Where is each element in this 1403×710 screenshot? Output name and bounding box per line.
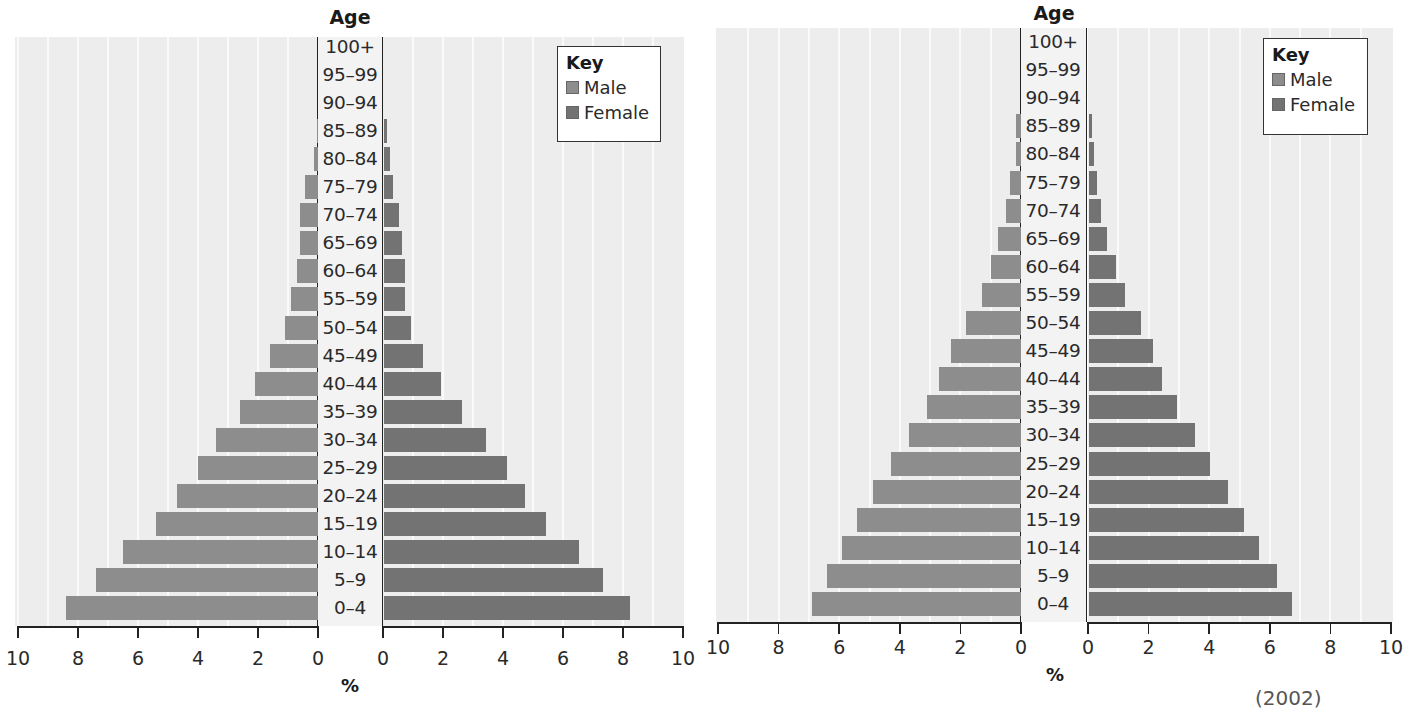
x-axis-tick xyxy=(899,622,901,634)
gridline xyxy=(808,28,810,622)
gridline xyxy=(747,28,749,622)
age-group-label: 25–29 xyxy=(1020,454,1086,474)
x-axis-tick-label: 6 xyxy=(1250,636,1290,658)
x-axis-tick-label: 4 xyxy=(880,636,920,658)
female-bar xyxy=(1089,199,1101,223)
male-bar xyxy=(991,255,1021,279)
x-axis-tick xyxy=(778,622,780,634)
x-axis-tick xyxy=(838,622,840,634)
gridline xyxy=(959,28,961,622)
male-bar xyxy=(927,395,1021,419)
x-axis-tick-label: 10 xyxy=(1371,636,1403,658)
male-bar xyxy=(909,423,1021,447)
x-axis-tick-label: 8 xyxy=(759,636,799,658)
male-bar xyxy=(1016,114,1021,138)
female-bar xyxy=(1089,227,1107,251)
female-bar xyxy=(1089,367,1162,391)
female-bar xyxy=(1089,592,1292,616)
x-axis-tick-label: 2 xyxy=(940,636,980,658)
female-bar xyxy=(1089,564,1277,588)
male-swatch-icon xyxy=(1272,73,1285,86)
legend: Key Male Female xyxy=(1263,38,1368,135)
age-group-label: 0–4 xyxy=(1020,594,1086,614)
x-axis-tick xyxy=(717,622,719,634)
age-group-label: 100+ xyxy=(1020,32,1086,52)
gridline xyxy=(929,28,931,622)
female-bar xyxy=(1089,480,1228,504)
male-bar xyxy=(812,592,1021,616)
x-axis-tick xyxy=(1390,622,1392,634)
age-group-label: 85–89 xyxy=(1020,116,1086,136)
male-bar xyxy=(1006,199,1021,223)
age-group-label: 40–44 xyxy=(1020,369,1086,389)
age-group-label: 35–39 xyxy=(1020,397,1086,417)
gridline xyxy=(838,28,840,622)
female-bar xyxy=(1089,508,1244,532)
female-bar xyxy=(1089,423,1195,447)
female-bar xyxy=(1089,114,1092,138)
x-axis-line xyxy=(718,622,1021,624)
gridline xyxy=(1148,28,1150,622)
age-group-label: 5–9 xyxy=(1020,566,1086,586)
female-bar xyxy=(1089,283,1125,307)
male-bar xyxy=(842,536,1021,560)
male-bar xyxy=(951,339,1021,363)
x-axis-line xyxy=(1088,622,1391,624)
age-axis-title: Age xyxy=(1014,2,1094,24)
age-group-label: 70–74 xyxy=(1020,201,1086,221)
female-bar xyxy=(1089,311,1141,335)
female-bar xyxy=(1089,339,1153,363)
male-bar xyxy=(982,283,1021,307)
age-group-label: 20–24 xyxy=(1020,482,1086,502)
gridline xyxy=(1178,28,1180,622)
age-group-label: 90–94 xyxy=(1020,88,1086,108)
x-axis-tick xyxy=(1208,622,1210,634)
female-swatch-icon xyxy=(1272,98,1285,111)
x-axis-tick xyxy=(960,622,962,634)
x-axis-tick-label: 4 xyxy=(1189,636,1229,658)
age-group-label: 10–14 xyxy=(1020,538,1086,558)
age-group-label: 55–59 xyxy=(1020,285,1086,305)
x-axis-tick-label: 8 xyxy=(1310,636,1350,658)
female-bar xyxy=(1089,142,1094,166)
female-bar xyxy=(1089,395,1177,419)
age-group-label: 45–49 xyxy=(1020,341,1086,361)
age-group-label: 30–34 xyxy=(1020,425,1086,445)
female-bar xyxy=(1089,536,1259,560)
gridline xyxy=(899,28,901,622)
x-axis-title: % xyxy=(1035,664,1075,685)
male-bar xyxy=(998,227,1021,251)
age-group-label: 50–54 xyxy=(1020,313,1086,333)
gridline xyxy=(778,28,780,622)
age-group-label: 15–19 xyxy=(1020,510,1086,530)
gridline xyxy=(869,28,871,622)
x-axis-tick-label: 6 xyxy=(819,636,859,658)
male-bar xyxy=(873,480,1021,504)
legend-item-female: Female xyxy=(1272,92,1359,117)
female-bar xyxy=(1089,452,1210,476)
legend-item-male: Male xyxy=(1272,67,1359,92)
male-bar xyxy=(891,452,1021,476)
x-axis-tick xyxy=(1148,622,1150,634)
age-group-label: 80–84 xyxy=(1020,144,1086,164)
x-axis-tick xyxy=(1020,622,1022,634)
x-axis-tick xyxy=(1269,622,1271,634)
x-axis-tick xyxy=(1330,622,1332,634)
male-bar xyxy=(1016,142,1021,166)
legend-label-female: Female xyxy=(1290,92,1355,117)
male-bar xyxy=(966,311,1021,335)
male-bar xyxy=(939,367,1021,391)
male-bar xyxy=(827,564,1021,588)
footnote: (2002) xyxy=(1255,686,1322,710)
x-axis-tick xyxy=(1087,622,1089,634)
male-bar xyxy=(857,508,1021,532)
age-group-label: 60–64 xyxy=(1020,257,1086,277)
age-group-label: 95–99 xyxy=(1020,60,1086,80)
legend-label-male: Male xyxy=(1290,67,1333,92)
age-group-label: 75–79 xyxy=(1020,173,1086,193)
male-bar xyxy=(1010,171,1021,195)
age-group-label: 65–69 xyxy=(1020,229,1086,249)
legend-title: Key xyxy=(1272,43,1359,67)
female-bar xyxy=(1089,171,1097,195)
